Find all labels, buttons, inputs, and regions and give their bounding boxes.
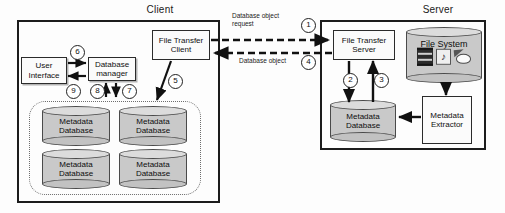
client-metadata-database-3[interactable]: Metadata Database [42, 149, 110, 189]
step-badge-6: 6 [70, 45, 85, 60]
cylinder-top [42, 149, 110, 159]
picture-icon [454, 50, 471, 64]
client-metadata-database-1-label: Metadata Database [42, 117, 110, 135]
film-icon [417, 48, 433, 66]
cylinder-top [42, 106, 110, 116]
node-database-manager[interactable]: Database manager [88, 57, 136, 81]
cdb4-line2: Database [136, 169, 170, 178]
node-database-manager-label: Database manager [95, 60, 129, 78]
step-badge-5: 5 [168, 74, 183, 89]
cdb3-line1: Metadata [59, 160, 92, 169]
request-label-line2: request [232, 20, 254, 27]
node-file-transfer-server-label: File Transfer Server [342, 36, 386, 54]
node-file-transfer-client-label: File Transfer Client [159, 36, 203, 54]
cylinder-bottom [119, 136, 187, 146]
cdb1-line2: Database [59, 126, 93, 135]
fts-label-line2: Server [352, 45, 376, 54]
step-badge-4: 4 [301, 55, 316, 70]
node-file-transfer-client[interactable]: File Transfer Client [152, 30, 210, 60]
mex-line2: Extractor [431, 120, 463, 129]
cylinder-bottom [406, 73, 482, 83]
cdb2-line1: Metadata [136, 117, 169, 126]
mex-line1: Metadata [430, 111, 463, 120]
client-metadata-database-1[interactable]: Metadata Database [42, 106, 110, 146]
step-badge-8: 8 [90, 84, 105, 99]
client-metadata-database-4[interactable]: Metadata Database [119, 149, 187, 189]
server-zone-title: Server [388, 4, 488, 15]
ftc-label-line2: Client [171, 45, 191, 54]
server-metadata-database[interactable]: Metadata Database [330, 100, 396, 142]
ftc-label-line1: File Transfer [159, 36, 203, 45]
smdb-line1: Metadata [346, 112, 379, 121]
node-user-interface-label: User Interface [28, 61, 59, 79]
client-metadata-database-2-label: Metadata Database [119, 117, 187, 135]
music-note-icon: ♪ [436, 49, 451, 65]
diagram-canvas: Client Server User Interface Database ma… [0, 0, 505, 213]
request-label-line1: Database object [232, 12, 279, 19]
cdb3-line2: Database [59, 169, 93, 178]
cylinder-top [406, 27, 482, 37]
step-badge-3: 3 [374, 73, 389, 88]
cdb4-line1: Metadata [136, 160, 169, 169]
client-metadata-database-2[interactable]: Metadata Database [119, 106, 187, 146]
ui-label-line1: User [36, 61, 53, 70]
fts-label-line1: File Transfer [342, 36, 386, 45]
smdb-line2: Database [346, 121, 380, 130]
node-metadata-extractor[interactable]: Metadata Extractor [422, 96, 472, 144]
node-user-interface[interactable]: User Interface [21, 57, 67, 84]
palette-shape [456, 54, 471, 64]
cylinder-bottom [330, 132, 396, 142]
cylinder-bottom [42, 136, 110, 146]
step-badge-7: 7 [122, 84, 137, 99]
ui-label-line2: Interface [28, 71, 59, 80]
dbm-label-line2: manager [96, 69, 128, 78]
cylinder-top [119, 106, 187, 116]
edge-label-response: Database object [239, 57, 286, 65]
cylinder-bottom [42, 179, 110, 189]
node-file-system[interactable]: File System ♪ [406, 27, 482, 83]
node-metadata-extractor-label: Metadata Extractor [430, 111, 463, 129]
cylinder-top [119, 149, 187, 159]
dbm-label-line1: Database [95, 60, 129, 69]
client-metadata-database-3-label: Metadata Database [42, 160, 110, 178]
client-zone-title: Client [101, 4, 219, 15]
step-badge-9: 9 [66, 84, 81, 99]
step-badge-2: 2 [343, 73, 358, 88]
step-badge-1: 1 [301, 18, 316, 33]
cylinder-top [330, 100, 396, 110]
client-metadata-database-4-label: Metadata Database [119, 160, 187, 178]
cylinder-bottom [119, 179, 187, 189]
cdb1-line1: Metadata [59, 117, 92, 126]
edge-label-request: Database object request [232, 12, 279, 28]
node-file-transfer-server[interactable]: File Transfer Server [333, 30, 395, 60]
cdb2-line2: Database [136, 126, 170, 135]
server-metadata-database-label: Metadata Database [330, 112, 396, 130]
file-system-icon-row: ♪ [406, 48, 482, 66]
